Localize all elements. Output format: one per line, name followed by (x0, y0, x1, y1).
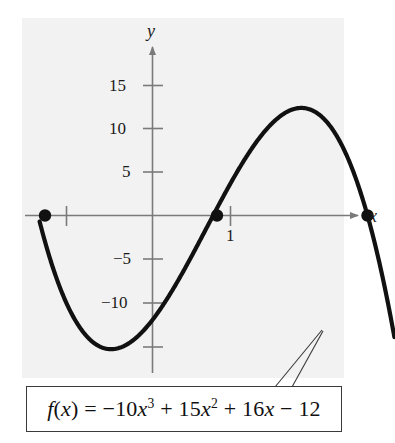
formula-term4: 12 (298, 396, 320, 421)
formula-term3-var: x (264, 396, 274, 421)
function-curve (40, 108, 395, 349)
formula-open-paren: ( (54, 396, 62, 421)
formula-term1-exponent: 3 (148, 396, 155, 411)
y-axis-label: y (147, 22, 155, 40)
root-point-1 (39, 209, 51, 221)
y-tick-label-15: 15 (109, 77, 126, 94)
formula-term2-exponent: 2 (211, 396, 218, 411)
y-tick-label-neg5: −5 (113, 250, 131, 267)
formula-term3-coef: 16 (242, 396, 264, 421)
y-tick-label-neg10: −10 (101, 294, 128, 311)
formula-minus: − (280, 396, 293, 421)
formula-term2-coef: 15 (179, 396, 201, 421)
leader-line-right (292, 331, 323, 387)
formula-close-paren: ) (71, 396, 79, 421)
formula-plus-2: + (224, 396, 237, 421)
root-point-2 (211, 209, 223, 221)
figure-container: 15 10 5 −5 −10 1 y x f(x) = −10x3 + 15x2… (0, 0, 395, 443)
formula-expression: f(x) = −10x3 + 15x2 + 16x − 12 (47, 396, 321, 422)
y-tick-label-5: 5 (122, 163, 131, 180)
formula-plus-1: + (160, 396, 173, 421)
formula-term2-var: x (201, 396, 211, 421)
x-axis-label: x (369, 207, 377, 225)
formula-term1-var: x (138, 396, 148, 421)
graph-canvas (0, 0, 395, 443)
x-tick-label-1: 1 (226, 227, 235, 244)
formula-equals: = (84, 396, 97, 421)
callout-leader-lines (275, 330, 323, 387)
formula-callout-box: f(x) = −10x3 + 15x2 + 16x − 12 (26, 386, 342, 432)
formula-term1-coef: −10 (103, 396, 138, 421)
y-tick-label-10: 10 (109, 120, 126, 137)
leader-line-left (275, 330, 322, 387)
formula-var: x (61, 396, 71, 421)
